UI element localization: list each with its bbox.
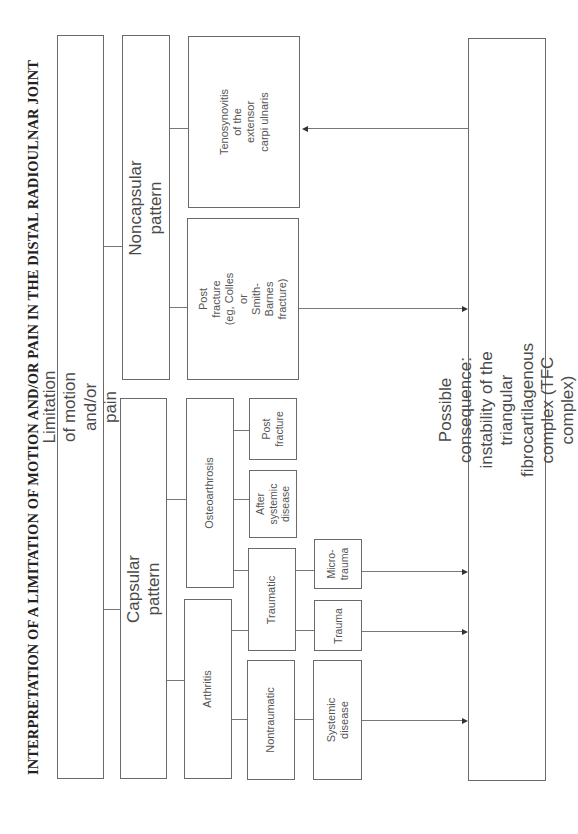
arrowhead-icon — [462, 718, 468, 724]
node-noncapsular-pattern: Noncapsular pattern — [122, 35, 170, 380]
node-after-systemic-disease: After systemic disease — [249, 470, 297, 538]
connector-root-noncapsular — [104, 246, 122, 247]
connector-traumatic-trauma — [296, 630, 314, 631]
node-label: Traumatic — [265, 575, 278, 624]
node-label: Systemic disease — [324, 698, 350, 743]
node-label: Nontraumatic — [264, 687, 277, 752]
node-label: Arthritis — [201, 670, 214, 707]
node-traumatic: Traumatic — [248, 548, 296, 651]
connector-arthritis-nontraumatic — [232, 719, 247, 720]
connector-capsular-osteoarthrosis — [167, 499, 186, 500]
connector-nontraumatic-systemic — [295, 719, 313, 720]
node-possible-consequence: Possible consequence: instability of the… — [468, 38, 546, 781]
node-limitation-of-motion: Limitation of motion and/or pain — [57, 35, 104, 779]
arrowhead-icon — [462, 629, 468, 635]
arrow-line-postfracture-consequence — [299, 308, 462, 309]
node-arthritis: Arthritis — [184, 599, 232, 779]
node-label: Tenosynovitis of the extensor carpi ulna… — [218, 89, 271, 155]
node-trauma: Trauma — [314, 600, 362, 651]
connector-root-capsular — [104, 609, 120, 610]
node-label: Possible consequence: instability of the… — [436, 342, 578, 476]
node-label: Post fracture — [260, 411, 285, 447]
node-label: Noncapsular pattern — [126, 160, 167, 255]
node-microtrauma: Micro- trauma — [314, 539, 362, 589]
node-label: After systemic disease — [254, 484, 292, 525]
connector-noncapsular-tenosynovitis — [170, 128, 188, 129]
connector-arthritis-traumatic — [232, 630, 248, 631]
connector-osteo-postfracture — [234, 430, 249, 431]
node-label: Osteoarthrosis — [203, 457, 216, 529]
arrow-line-consequence-tenosynovitis — [308, 128, 468, 129]
arrow-line-trauma-consequence — [362, 631, 462, 632]
node-label: Capsular pattern — [123, 554, 164, 622]
node-capsular-pattern: Capsular pattern — [120, 398, 167, 779]
node-label: Limitation of motion and/or pain — [40, 371, 122, 444]
node-label: Post fracture (eg, Colles or Smith-Barne… — [197, 272, 289, 327]
connector-traumatic-microtrauma — [296, 570, 314, 571]
arrowhead-icon — [462, 569, 468, 575]
node-nontraumatic: Nontraumatic — [247, 660, 295, 780]
connector-osteo-traumatic — [234, 570, 248, 571]
arrowhead-icon — [462, 306, 468, 312]
node-label: Trauma — [332, 608, 345, 644]
node-tenosynovitis: Tenosynovitis of the extensor carpi ulna… — [188, 36, 300, 208]
node-systemic-disease: Systemic disease — [313, 660, 362, 780]
node-osteoarthrosis: Osteoarthrosis — [186, 398, 234, 588]
connector-osteo-aftersystemic — [234, 499, 249, 500]
arrow-line-systemic-consequence — [362, 720, 462, 721]
arrowhead-icon — [302, 126, 308, 132]
connector-capsular-arthritis — [167, 680, 184, 681]
arrow-line-microtrauma-consequence — [362, 571, 462, 572]
node-post-fracture-colles: Post fracture (eg, Colles or Smith-Barne… — [187, 218, 299, 380]
node-label: Micro- trauma — [325, 548, 350, 581]
connector-noncapsular-postfracture — [170, 307, 187, 308]
node-post-fracture: Post fracture — [249, 398, 297, 460]
